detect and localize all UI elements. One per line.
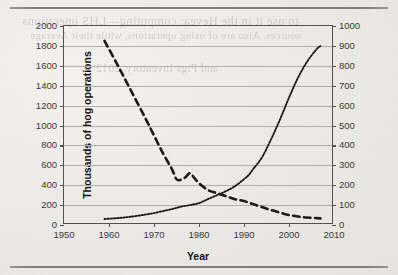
x-axis-tick-label: 1990 xyxy=(233,230,254,240)
y-axis-left-tick xyxy=(60,225,64,226)
y-axis-right-tick-label: 900 xyxy=(339,41,355,51)
x-axis-tick-label: 1950 xyxy=(53,230,74,240)
y-axis-left-tick-label: 1800 xyxy=(36,41,57,51)
y-axis-right-tick xyxy=(332,225,336,226)
y-axis-right-tick-label: 500 xyxy=(339,121,355,131)
y-axis-right-tick-label: 700 xyxy=(339,81,355,91)
x-axis-tick-label: 1970 xyxy=(143,230,164,240)
y-axis-right-tick-label: 800 xyxy=(339,61,355,71)
y-axis-right-tick-label: 100 xyxy=(339,200,355,210)
y-axis-right-tick-label: 200 xyxy=(339,180,355,190)
y-axis-left-tick-label: 1000 xyxy=(36,121,57,131)
y-axis-left-tick-label: 1200 xyxy=(36,101,57,111)
y-axis-left-tick-label: 2000 xyxy=(36,21,57,31)
y-axis-right-tick-label: 600 xyxy=(339,101,355,111)
series-lines xyxy=(64,26,334,225)
y-axis-left-tick-label: 800 xyxy=(41,141,57,151)
y-axis-right-tick-label: 300 xyxy=(339,161,355,171)
plot-area: 0200400600800100012001400160018002000 01… xyxy=(63,25,333,224)
x-axis-tick-label: 2000 xyxy=(278,230,299,240)
x-axis-tick-label: 1980 xyxy=(188,230,209,240)
x-axis-tick-label: 2010 xyxy=(323,230,344,240)
x-axis-tick-label: 1960 xyxy=(98,230,119,240)
x-axis-title: Year xyxy=(187,250,209,262)
y-axis-left-tick-label: 600 xyxy=(41,161,57,171)
y-axis-left-tick-label: 400 xyxy=(41,180,57,190)
series-line-hog-operations xyxy=(105,41,321,218)
y-axis-left-tick-label: 1400 xyxy=(36,81,57,91)
y-axis-left-tick-label: 1600 xyxy=(36,61,57,71)
hog-operations-chart: Thousands of hog operations Average numb… xyxy=(0,0,398,275)
y-axis-right-tick-label: 400 xyxy=(339,141,355,151)
y-axis-left-tick-label: 200 xyxy=(41,200,57,210)
y-axis-right-tick-label: 1000 xyxy=(339,21,360,31)
